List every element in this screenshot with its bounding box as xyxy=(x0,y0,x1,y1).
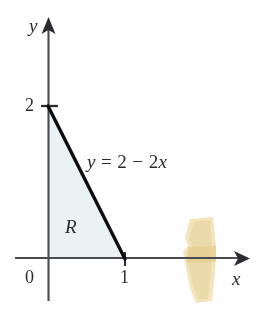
region-label-R: R xyxy=(65,217,77,236)
x-tick-label-1: 1 xyxy=(120,268,129,286)
equation-constant: 2 xyxy=(117,151,127,172)
origin-label: 0 xyxy=(25,268,34,286)
highlighter-smudge-artifact xyxy=(183,217,216,303)
equation-coefficient: 2 xyxy=(149,151,159,172)
figure-canvas: y x 2 0 1 R y = 2 − 2x xyxy=(0,0,267,314)
equation-equals: = xyxy=(101,151,112,172)
y-tick-label-2: 2 xyxy=(25,96,34,114)
curve-equation-label: y = 2 − 2x xyxy=(87,152,167,171)
x-axis-label: x xyxy=(232,269,240,288)
y-axis-label: y xyxy=(29,16,37,35)
equation-lhs: y xyxy=(87,151,96,172)
equation-variable: x xyxy=(159,151,168,172)
equation-minus-sign: − xyxy=(132,151,143,172)
